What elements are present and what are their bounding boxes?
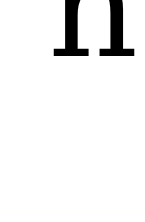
letter-glyph: h — [48, 0, 138, 78]
